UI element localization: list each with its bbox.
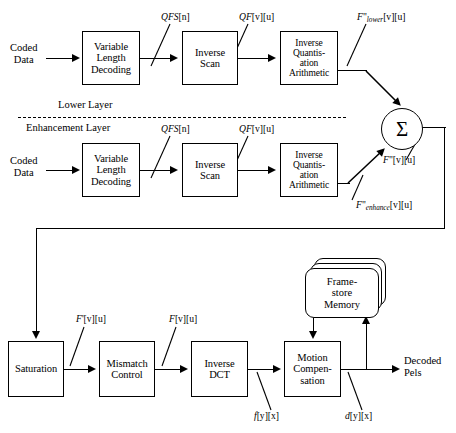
signal-f-plain: F[v][u]	[169, 314, 197, 324]
signal-d-small: d[y][x]	[345, 411, 372, 421]
block-inverse-dct[interactable]: Inverse DCT	[191, 341, 248, 397]
lower-coded-data-label: Coded Data	[10, 42, 37, 65]
enh-input-arrowhead	[72, 166, 80, 174]
iq-enh-line3: ation	[300, 170, 319, 180]
lower-vld-to-scan-arrowhead	[170, 54, 178, 62]
block-inverse-quant-enhancement[interactable]: Inverse Quantis- ation Arithmetic	[280, 143, 338, 197]
fpp-lower-sub: lower	[367, 16, 383, 24]
signal-fpp-sum: F"[v][u]	[383, 155, 415, 165]
sigma-icon: Σ	[396, 117, 408, 142]
mismatch-line2: Control	[111, 369, 142, 380]
mismatch-to-idct-arrowhead	[180, 365, 188, 373]
iq-enh-line4: Arithmetic	[289, 180, 329, 190]
decoded-pels-line1: Decoded	[404, 355, 441, 366]
iq-lower-line4: Arithmetic	[289, 68, 329, 78]
signal-qf-enhancement: QF[v][u]	[239, 124, 274, 134]
idct-line1: Inverse	[204, 358, 234, 369]
enh-coded-line2: Data	[14, 167, 34, 178]
qf-enh-base: QF	[239, 123, 252, 134]
idct-to-mc-arrowhead	[273, 365, 281, 373]
iscan-lower-line2: Scan	[200, 58, 220, 69]
idct-line2: DCT	[209, 369, 230, 380]
vld-enh-line1: Variable	[94, 153, 128, 164]
signal-fpp-enhance: F"enhance[v][u]	[356, 200, 412, 210]
block-saturation[interactable]: Saturation	[8, 341, 64, 397]
vld-lower-line1: Variable	[94, 41, 128, 52]
framestore-line3: Memory	[324, 299, 360, 310]
iq-enh-line2: Quantis-	[293, 160, 325, 170]
saturation-input-arrowhead	[32, 331, 40, 339]
summation-node[interactable]: Σ	[381, 108, 423, 150]
decoded-pels-label: Decoded Pels	[404, 355, 441, 378]
f-small-index: [y][x]	[257, 410, 279, 421]
lower-coded-line2: Data	[14, 54, 34, 65]
qfs-enh-index: [n]	[179, 123, 190, 134]
signal-f-small: f[y][x]	[254, 411, 279, 421]
decoded-pels-arrowhead	[392, 365, 400, 373]
block-frame-store-memory[interactable]: Frame- store Memory	[305, 268, 379, 318]
qf-lower-base: QF	[239, 11, 252, 22]
mc-line3: sation	[300, 375, 324, 386]
lower-layer-label: Lower Layer	[58, 99, 113, 111]
enh-vld-to-scan-arrowhead	[170, 166, 178, 174]
enh-coded-line1: Coded	[10, 155, 37, 166]
iscan-lower-line1: Inverse	[195, 47, 225, 58]
qfs-lower-base: QFS	[161, 11, 179, 22]
iscan-enh-line1: Inverse	[195, 159, 225, 170]
mc-line1: Motion	[297, 352, 327, 363]
iq-lower-line3: ation	[300, 58, 319, 68]
fpp-sum-index: [v][u]	[393, 154, 415, 165]
block-motion-compensation[interactable]: Motion Compen- sation	[284, 341, 341, 397]
signal-qfs-enhancement: QFS[n]	[161, 124, 190, 134]
qf-enh-index: [v][u]	[252, 123, 274, 134]
iq-lower-line1: Inverse	[295, 38, 322, 48]
signal-fpp-lower: F"lower[v][u]	[357, 12, 406, 22]
saturation-line1: Saturation	[15, 363, 57, 374]
lower-scan-to-iq-arrowhead	[268, 54, 276, 62]
lower-coded-line1: Coded	[10, 42, 37, 53]
signal-qf-lower: QF[v][u]	[239, 12, 274, 22]
block-inverse-scan-lower[interactable]: Inverse Scan	[182, 31, 238, 85]
signal-f-prime: F'[v][u]	[76, 314, 106, 324]
block-inverse-quant-lower[interactable]: Inverse Quantis- ation Arithmetic	[280, 31, 338, 85]
iq-lower-line2: Quantis-	[293, 48, 325, 58]
block-inverse-scan-enhancement[interactable]: Inverse Scan	[182, 143, 238, 197]
mismatch-line1: Mismatch	[106, 358, 147, 369]
framestore-to-mc-arrowhead	[309, 331, 317, 339]
decoded-pels-line2: Pels	[404, 367, 422, 378]
lower-input-arrowhead	[72, 54, 80, 62]
block-mismatch-control[interactable]: Mismatch Control	[99, 341, 155, 397]
iscan-enh-line2: Scan	[200, 170, 220, 181]
fpp-enh-index: [v][u]	[390, 199, 412, 210]
fpp-lower-index: [v][u]	[383, 11, 405, 22]
vld-lower-line2: Length	[96, 52, 125, 63]
qfs-enh-base: QFS	[161, 123, 179, 134]
fpp-enh-sub: enhance	[366, 204, 390, 212]
framestore-line2: store	[332, 287, 352, 298]
block-vld-enhancement[interactable]: Variable Length Decoding	[82, 143, 140, 197]
vld-enh-line2: Length	[96, 164, 125, 175]
f-prime-index: [v][u]	[84, 313, 106, 324]
iq-enh-line1: Inverse	[295, 150, 322, 160]
enh-scan-to-iq-arrowhead	[268, 166, 276, 174]
signal-qfs-lower: QFS[n]	[161, 12, 190, 22]
sat-to-mismatch-arrowhead	[88, 365, 96, 373]
enhancement-layer-label: Enhancement Layer	[26, 122, 110, 134]
f-plain-index: [v][u]	[175, 313, 197, 324]
enh-coded-data-label: Coded Data	[10, 155, 37, 178]
vld-enh-line3: Decoding	[91, 176, 131, 187]
qf-lower-index: [v][u]	[252, 11, 274, 22]
mc-line2: Compen-	[293, 363, 331, 374]
d-small-index: [y][x]	[350, 410, 372, 421]
framestore-line1: Frame-	[327, 276, 357, 287]
qfs-lower-index: [n]	[179, 11, 190, 22]
scalable-decoder-diagram: Coded Data Variable Length Decoding Inve…	[0, 0, 456, 433]
block-vld-lower[interactable]: Variable Length Decoding	[82, 31, 140, 85]
vld-lower-line3: Decoding	[91, 64, 131, 75]
